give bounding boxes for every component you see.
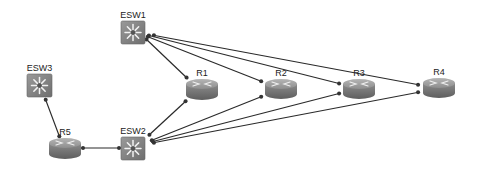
router-icon xyxy=(423,78,455,98)
node-label: ESW3 xyxy=(27,63,53,73)
node-r2[interactable]: R2 xyxy=(265,68,297,99)
port-dot xyxy=(152,141,156,145)
node-esw2[interactable]: ESW2 xyxy=(120,126,146,160)
node-r1[interactable]: R1 xyxy=(186,68,218,100)
port-dot xyxy=(147,33,151,37)
router-icon xyxy=(265,79,297,99)
node-label: ESW2 xyxy=(120,126,146,136)
node-label: R5 xyxy=(59,127,71,137)
node-label: R4 xyxy=(433,67,445,77)
port-dot xyxy=(185,76,189,80)
switch-icon xyxy=(121,137,145,160)
link-esw2-r1[interactable] xyxy=(147,99,187,136)
port-dot xyxy=(152,33,156,37)
port-dot xyxy=(81,146,85,150)
node-esw3[interactable]: ESW3 xyxy=(27,63,53,97)
port-dot xyxy=(416,83,420,87)
node-label: ESW1 xyxy=(120,10,146,20)
node-label: R3 xyxy=(353,68,365,78)
port-dot xyxy=(259,95,263,99)
port-dot xyxy=(184,99,188,103)
port-dot xyxy=(44,98,48,102)
link-esw1-r4[interactable] xyxy=(152,33,420,86)
router-icon xyxy=(343,79,375,99)
nodes-layer: ESW1ESW2ESW3R1R2R3R4R5 xyxy=(27,10,455,160)
node-label: R1 xyxy=(196,68,208,78)
node-r3[interactable]: R3 xyxy=(343,68,375,99)
node-r4[interactable]: R4 xyxy=(423,67,455,98)
node-label: R2 xyxy=(275,68,287,78)
switch-icon xyxy=(27,74,52,97)
node-r5[interactable]: R5 xyxy=(49,127,81,159)
router-icon xyxy=(186,79,218,100)
router-icon xyxy=(49,138,81,159)
port-dot xyxy=(337,82,341,86)
port-dot xyxy=(147,133,151,137)
link-esw1-r3[interactable] xyxy=(147,33,341,85)
port-dot xyxy=(416,90,420,94)
link-esw2-r3[interactable] xyxy=(151,91,341,143)
port-dot xyxy=(259,79,263,83)
port-dot xyxy=(337,91,341,95)
node-esw1[interactable]: ESW1 xyxy=(120,10,146,44)
switch-icon xyxy=(121,21,145,44)
link-r5-esw2[interactable] xyxy=(81,146,121,150)
port-dot xyxy=(117,146,121,150)
network-diagram: ESW1ESW2ESW3R1R2R3R4R5 xyxy=(0,0,478,173)
